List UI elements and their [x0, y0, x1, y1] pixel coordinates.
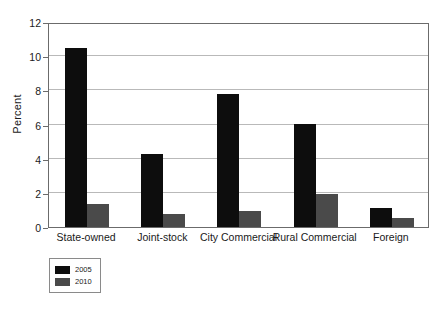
- y-tick-label: 2: [35, 188, 41, 200]
- y-tick-label: 4: [35, 154, 41, 166]
- bar-2010: [87, 204, 109, 227]
- bar-group: [201, 24, 277, 227]
- bar-group: [125, 24, 201, 227]
- y-tick-label: 0: [35, 222, 41, 234]
- bar-2010: [316, 194, 338, 227]
- x-tick-label: Joint-stock: [137, 231, 187, 243]
- legend-item-2005: 2005: [55, 264, 92, 275]
- bar-2010: [163, 214, 185, 227]
- bar-2010: [392, 218, 414, 227]
- legend: 20052010: [49, 258, 101, 293]
- legend-label-2005: 2005: [75, 266, 92, 274]
- legend-item-2010: 2010: [55, 276, 92, 287]
- legend-label-2010: 2010: [75, 278, 92, 286]
- x-tick-label: Foreign: [373, 231, 409, 243]
- y-tick-label: 10: [29, 51, 41, 63]
- bar-2010: [239, 211, 261, 227]
- bar-group: [49, 24, 125, 227]
- bar-chart: Percent 024681012 State-ownedJoint-stock…: [0, 0, 443, 311]
- bar-series-container: [49, 24, 428, 227]
- y-tick-label: 6: [35, 120, 41, 132]
- bar-2005: [65, 48, 87, 227]
- x-tick-label: City Commercial: [200, 231, 277, 243]
- y-axis-ticks: 024681012: [0, 0, 48, 228]
- plot-area: [48, 23, 429, 228]
- y-tick-mark: [43, 228, 48, 229]
- x-tick-label: Rural Commercial: [273, 231, 357, 243]
- bar-group: [354, 24, 430, 227]
- bar-2005: [294, 124, 316, 227]
- legend-swatch-2005: [55, 266, 70, 274]
- y-tick-label: 12: [29, 17, 41, 29]
- bar-2005: [217, 94, 239, 227]
- bar-2005: [141, 154, 163, 227]
- y-tick-label: 8: [35, 85, 41, 97]
- bar-2005: [370, 208, 392, 227]
- legend-swatch-2010: [55, 278, 70, 286]
- bar-group: [278, 24, 354, 227]
- x-tick-label: State-owned: [57, 231, 116, 243]
- x-axis-labels: State-ownedJoint-stockCity CommercialRur…: [48, 231, 429, 249]
